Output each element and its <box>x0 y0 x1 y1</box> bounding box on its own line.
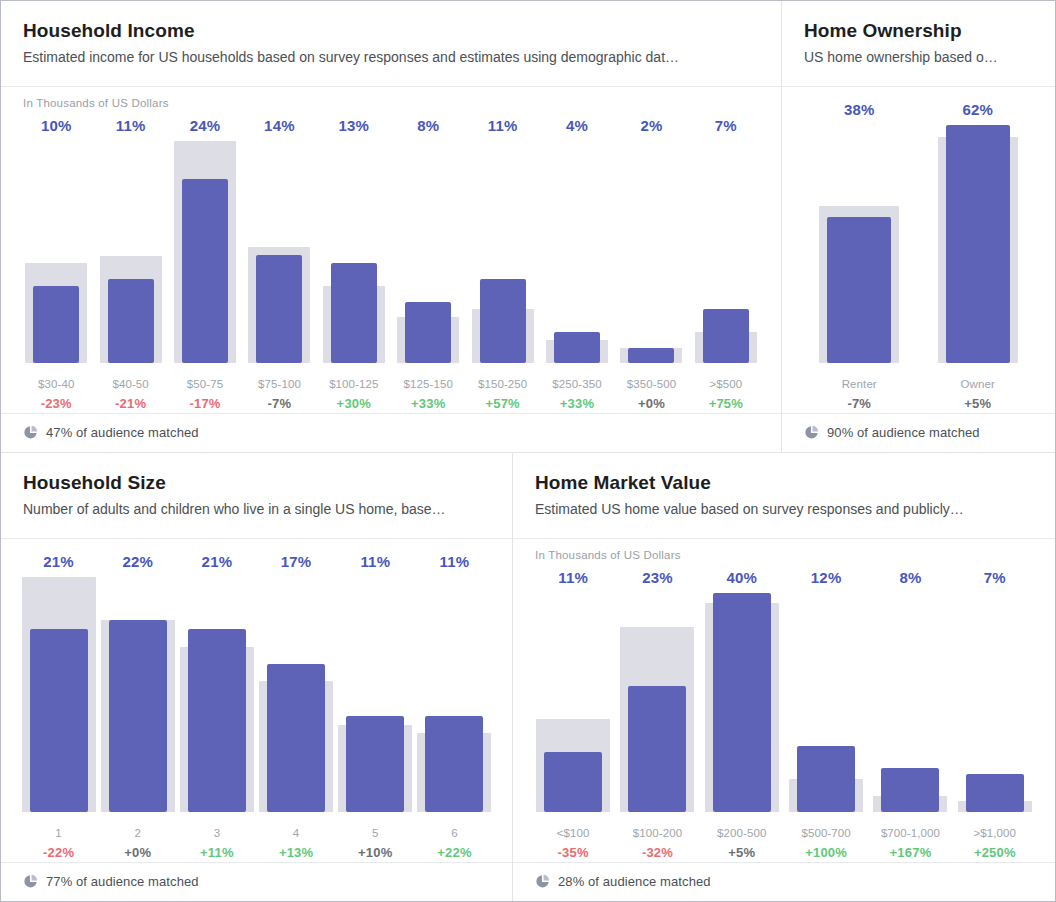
x-axis-category-label: 5 <box>336 825 415 841</box>
bar-slot[interactable]: 7% <box>689 115 763 409</box>
audience-bar[interactable] <box>331 263 377 363</box>
audience-bar[interactable] <box>188 629 246 812</box>
delta-label: +33% <box>540 394 614 413</box>
audience-bar[interactable] <box>713 593 771 812</box>
audience-bar[interactable] <box>30 629 88 812</box>
bar-value-label: 21% <box>43 553 74 570</box>
panel-subtitle: Estimated income for US households based… <box>23 48 759 67</box>
panel-household-size[interactable]: Household Size Number of adults and chil… <box>1 453 513 901</box>
delta-label: -32% <box>615 843 699 862</box>
bar-slot[interactable]: 21% <box>177 551 256 858</box>
bar-stack <box>531 593 615 812</box>
panel-household-income[interactable]: Household Income Estimated income for US… <box>1 1 782 453</box>
bar-slot[interactable]: 11% <box>531 567 615 858</box>
axis-note: In Thousands of US Dollars <box>23 97 169 109</box>
audience-bar[interactable] <box>946 125 1010 363</box>
x-axis-category-label: >$1,000 <box>953 825 1037 841</box>
x-axis-category-label: Owner <box>919 376 1038 392</box>
audience-bar[interactable] <box>628 348 674 363</box>
bar-value-label: 2% <box>640 117 662 134</box>
bar-slot[interactable]: 11% <box>465 115 539 409</box>
bar-value-label: 12% <box>811 569 842 586</box>
bar-group: 21%22%21%17%11%11% <box>19 551 494 858</box>
page-title: Home Ownership <box>804 19 1033 43</box>
bar-value-label: 7% <box>715 117 737 134</box>
bar-slot[interactable]: 8% <box>868 567 952 858</box>
bar-slot[interactable]: 10% <box>19 115 93 409</box>
bar-slot[interactable]: 12% <box>784 567 868 858</box>
bar-value-label: 62% <box>962 101 993 118</box>
audience-bar[interactable] <box>827 217 891 363</box>
bar-slot[interactable]: 40% <box>700 567 784 858</box>
bar-group: 11%23%40%12%8%7% <box>531 567 1037 858</box>
bar-slot[interactable]: 11% <box>415 551 494 858</box>
pie-chart-icon <box>23 425 38 440</box>
bar-slot[interactable]: 7% <box>953 567 1037 858</box>
x-axis-tick: <$100-35% <box>531 825 615 862</box>
audience-bar[interactable] <box>628 686 686 812</box>
bar-slot[interactable]: 24% <box>168 115 242 409</box>
audience-bar[interactable] <box>480 279 526 363</box>
x-axis-category-label: $700-1,000 <box>868 825 952 841</box>
panel-footer: 90% of audience matched <box>782 413 1055 452</box>
bar-slot[interactable]: 23% <box>615 567 699 858</box>
bar-slot[interactable]: 38% <box>800 99 919 409</box>
bar-value-label: 17% <box>281 553 312 570</box>
audience-bar[interactable] <box>108 279 154 363</box>
panel-row-top: Household Income Estimated income for US… <box>1 1 1055 453</box>
bar-slot[interactable]: 22% <box>98 551 177 858</box>
panel-subtitle: Number of adults and children who live i… <box>23 500 490 519</box>
delta-label: -23% <box>19 394 93 413</box>
delta-label: +5% <box>700 843 784 862</box>
delta-label: -22% <box>19 843 98 862</box>
panel-home-market-value[interactable]: Home Market Value Estimated US home valu… <box>513 453 1055 901</box>
bar-slot[interactable]: 8% <box>391 115 465 409</box>
x-axis-tick: $250-350+33% <box>540 376 614 413</box>
bar-slot[interactable]: 13% <box>317 115 391 409</box>
x-axis-category-label: $500-700 <box>784 825 868 841</box>
delta-label: +0% <box>98 843 177 862</box>
bar-value-label: 8% <box>899 569 921 586</box>
audience-bar[interactable] <box>182 179 228 363</box>
audience-bar[interactable] <box>346 716 404 812</box>
delta-label: -7% <box>800 394 919 413</box>
audience-bar[interactable] <box>256 255 302 363</box>
bar-group: 38%62% <box>800 99 1037 409</box>
audience-bar[interactable] <box>267 664 325 813</box>
audience-bar[interactable] <box>425 716 483 812</box>
bar-stack <box>953 593 1037 812</box>
x-axis-category-label: 6 <box>415 825 494 841</box>
panel-subtitle: Estimated US home value based on survey … <box>535 500 1033 519</box>
audience-bar[interactable] <box>881 768 939 812</box>
delta-label: +30% <box>317 394 391 413</box>
bar-value-label: 7% <box>984 569 1006 586</box>
bar-slot[interactable]: 11% <box>336 551 415 858</box>
bar-stack <box>614 141 688 363</box>
bar-slot[interactable]: 4% <box>540 115 614 409</box>
bar-value-label: 24% <box>190 117 221 134</box>
bar-stack <box>168 141 242 363</box>
audience-bar[interactable] <box>405 302 451 363</box>
x-axis-tick: 3+11% <box>177 825 256 862</box>
audience-bar[interactable] <box>33 286 79 363</box>
audience-bar[interactable] <box>966 774 1024 812</box>
bar-slot[interactable]: 2% <box>614 115 688 409</box>
panel-home-ownership[interactable]: Home Ownership US home ownership based o… <box>782 1 1055 453</box>
audience-bar[interactable] <box>544 752 602 812</box>
bar-value-label: 23% <box>642 569 673 586</box>
x-axis-category-label: <$100 <box>531 825 615 841</box>
bar-value-label: 11% <box>360 553 390 570</box>
x-axis-tick: $30-40-23% <box>19 376 93 413</box>
audience-bar[interactable] <box>797 746 855 812</box>
audience-bar[interactable] <box>554 332 600 363</box>
x-axis-tick: $150-250+57% <box>465 376 539 413</box>
bar-slot[interactable]: 11% <box>93 115 167 409</box>
bar-slot[interactable]: 62% <box>919 99 1038 409</box>
bar-slot[interactable]: 14% <box>242 115 316 409</box>
audience-bar[interactable] <box>109 620 167 812</box>
axis-note: In Thousands of US Dollars <box>535 549 681 561</box>
x-axis-tick: 4+13% <box>257 825 336 862</box>
bar-slot[interactable]: 17% <box>257 551 336 858</box>
audience-bar[interactable] <box>703 309 749 363</box>
bar-slot[interactable]: 21% <box>19 551 98 858</box>
